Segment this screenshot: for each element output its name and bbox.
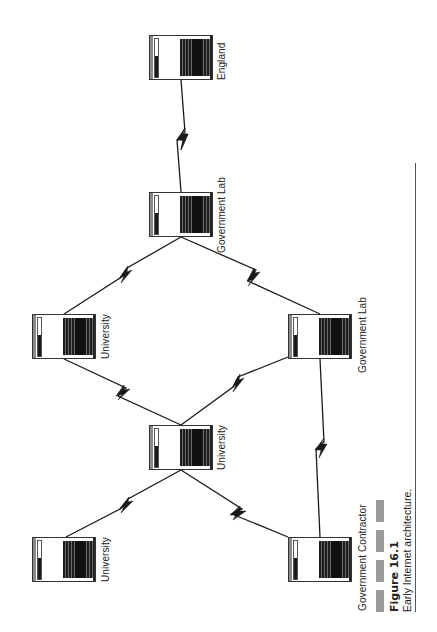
- link-govlab-university-left: [64, 237, 181, 314]
- node-strip: [33, 315, 36, 358]
- node-edge: [349, 538, 351, 581]
- node-panel: [37, 317, 42, 357]
- computer-screen-icon: [180, 196, 210, 233]
- link-england-govlab: [177, 80, 188, 192]
- node-university-left: [32, 314, 96, 359]
- node-edge: [210, 193, 212, 236]
- node-panel: [293, 540, 298, 580]
- node-strip: [289, 538, 292, 581]
- node-label-university-bottom: University: [100, 537, 111, 582]
- figure-number: Figure 16.1: [388, 541, 401, 612]
- computer-screen-icon: [319, 541, 349, 578]
- caption-rule: [415, 163, 416, 612]
- node-edge: [349, 315, 351, 358]
- link-govlab-govlab-right: [181, 237, 320, 314]
- link-university-center-bottom: [66, 470, 181, 537]
- computer-screen-icon: [319, 318, 349, 355]
- node-university-bottom: [32, 537, 96, 582]
- figure-caption: Early Internet architecture.: [401, 489, 413, 612]
- node-strip: [150, 36, 153, 79]
- node-edge: [93, 315, 95, 358]
- node-strip: [289, 315, 292, 358]
- node-strip: [150, 426, 153, 469]
- node-panel: [37, 540, 42, 580]
- caption-decor-square: [376, 530, 384, 552]
- node-label-university-center: University: [216, 425, 227, 470]
- link-govlab-right-contractor: [315, 359, 327, 537]
- node-panel: [293, 317, 298, 357]
- caption-decor-square: [376, 560, 384, 582]
- link-university-left-center: [64, 359, 181, 425]
- node-label-gov-contractor: Government Contractor: [357, 504, 368, 611]
- node-label-gov-lab-top: Government Lab: [216, 177, 227, 253]
- node-gov-contractor: [288, 537, 352, 582]
- caption-decor-square: [376, 590, 384, 612]
- node-strip: [150, 193, 153, 236]
- computer-screen-icon: [180, 429, 210, 466]
- computer-screen-icon: [63, 541, 93, 578]
- link-govlab-right-university-center: [181, 357, 288, 425]
- computer-screen-icon: [63, 318, 93, 355]
- computer-screen-icon: [180, 39, 210, 76]
- link-university-center-contractor: [181, 470, 288, 537]
- node-edge: [93, 538, 95, 581]
- node-panel: [154, 38, 159, 78]
- node-gov-lab-top: [149, 192, 213, 237]
- node-gov-lab-right: [288, 314, 352, 359]
- node-label-england: England: [216, 43, 227, 80]
- node-england: [149, 35, 213, 80]
- node-panel: [154, 195, 159, 235]
- node-strip: [33, 538, 36, 581]
- node-edge: [210, 36, 212, 79]
- node-university-center: [149, 425, 213, 470]
- node-label-university-left: University: [100, 314, 111, 359]
- node-panel: [154, 428, 159, 468]
- node-label-gov-lab-right: Government Lab: [357, 297, 368, 373]
- node-edge: [210, 426, 212, 469]
- caption-decor-square: [376, 500, 384, 522]
